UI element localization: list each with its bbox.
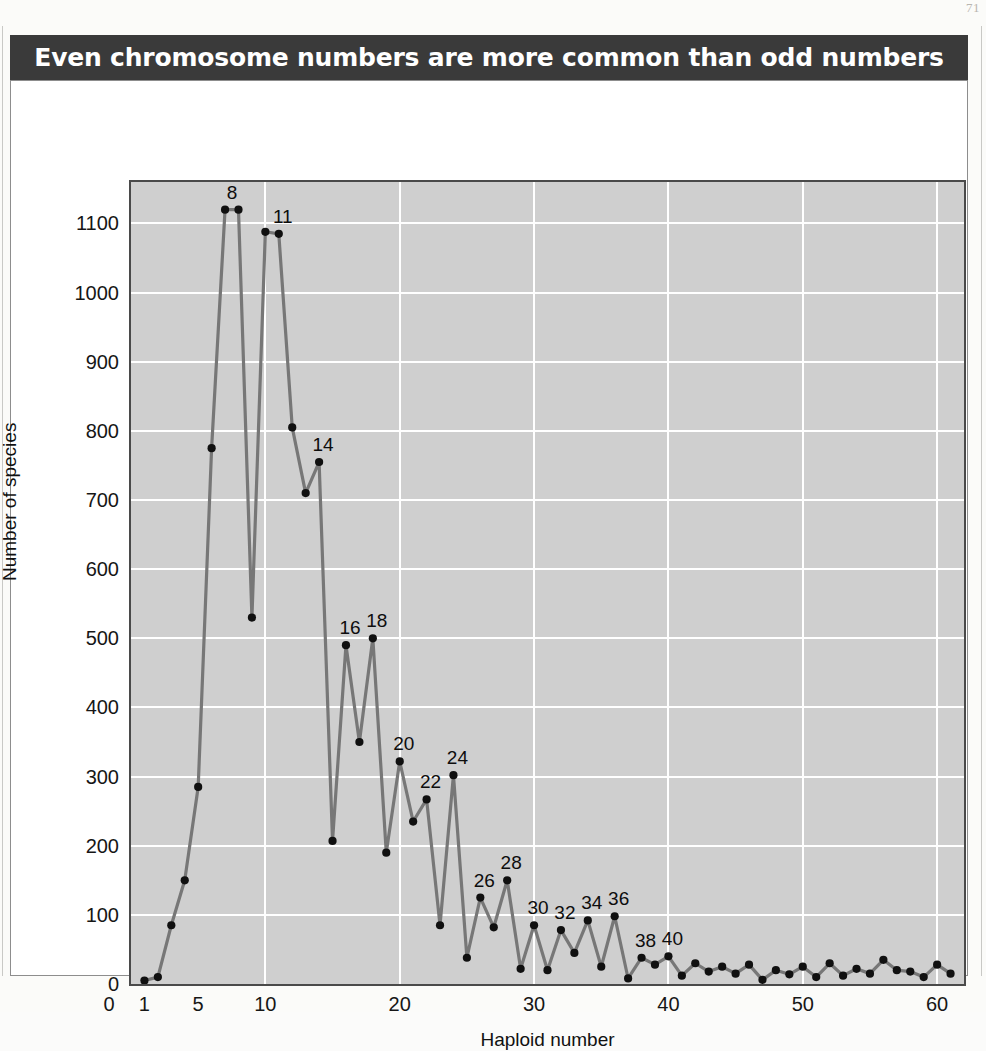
data-point-marker xyxy=(302,489,310,497)
data-point-marker xyxy=(920,973,928,981)
data-point-label: 8 xyxy=(227,182,238,204)
y-tick-label: 400 xyxy=(86,696,119,719)
x-tick-label: 30 xyxy=(523,993,545,1016)
data-point-marker xyxy=(812,973,820,981)
data-point-label: 32 xyxy=(554,902,575,924)
data-point-marker xyxy=(369,634,377,642)
data-point-marker xyxy=(624,974,632,982)
data-point-label: 14 xyxy=(313,434,334,456)
data-point-marker xyxy=(584,916,592,924)
data-point-marker xyxy=(181,876,189,884)
data-point-label: 34 xyxy=(581,892,602,914)
data-point-marker xyxy=(879,956,887,964)
x-axis-title: Haploid number xyxy=(129,1029,966,1051)
data-point-marker xyxy=(758,976,766,984)
chart-title-bar: Even chromosome numbers are more common … xyxy=(10,35,968,80)
figure-frame: 8111416182022242628303234363840 01002003… xyxy=(10,80,968,976)
line-series xyxy=(131,182,964,984)
x-tick-label: 10 xyxy=(254,993,276,1016)
data-point-marker xyxy=(705,967,713,975)
data-point-marker xyxy=(328,837,336,845)
data-point-marker xyxy=(167,921,175,929)
data-point-label: 20 xyxy=(393,733,414,755)
y-tick-label: 500 xyxy=(86,627,119,650)
y-axis-title: Number of species xyxy=(0,423,21,581)
data-point-label: 24 xyxy=(447,747,468,769)
x-tick-label: 50 xyxy=(792,993,814,1016)
data-point-marker xyxy=(449,771,457,779)
data-point-marker xyxy=(718,963,726,971)
data-point-marker xyxy=(772,966,780,974)
data-point-marker xyxy=(382,849,390,857)
page-number-artifact: 71 xyxy=(966,0,980,16)
data-point-marker xyxy=(611,912,619,920)
data-point-marker xyxy=(691,959,699,967)
data-point-marker xyxy=(839,972,847,980)
x-tick-label: 5 xyxy=(193,993,204,1016)
y-tick-label: 700 xyxy=(86,489,119,512)
x-axis-origin-label: 0 xyxy=(103,993,114,1016)
data-point-marker xyxy=(530,921,538,929)
x-tick-label: 20 xyxy=(389,993,411,1016)
data-point-marker xyxy=(557,926,565,934)
x-tick-label: 40 xyxy=(657,993,679,1016)
data-point-marker xyxy=(275,230,283,238)
data-point-marker xyxy=(893,966,901,974)
data-point-label: 22 xyxy=(420,771,441,793)
data-point-marker xyxy=(543,966,551,974)
series-polyline xyxy=(144,210,950,981)
y-tick-label: 200 xyxy=(86,834,119,857)
y-tick-label: 600 xyxy=(86,558,119,581)
plot-inner: 8111416182022242628303234363840 xyxy=(131,182,964,984)
data-point-label: 30 xyxy=(527,897,548,919)
data-point-label: 11 xyxy=(273,206,293,228)
data-point-marker xyxy=(826,959,834,967)
data-point-marker xyxy=(799,963,807,971)
data-point-marker xyxy=(221,206,229,214)
chart-title: Even chromosome numbers are more common … xyxy=(34,43,944,72)
y-tick-label: 300 xyxy=(86,765,119,788)
data-point-marker xyxy=(436,921,444,929)
data-point-marker xyxy=(342,641,350,649)
x-tick-label: 1 xyxy=(139,993,150,1016)
data-point-marker xyxy=(678,972,686,980)
data-point-label: 26 xyxy=(474,870,495,892)
data-point-marker xyxy=(503,876,511,884)
y-tick-label: 900 xyxy=(86,350,119,373)
data-point-label: 38 xyxy=(635,930,656,952)
data-point-marker xyxy=(785,970,793,978)
data-point-marker xyxy=(517,965,525,973)
y-tick-label: 1000 xyxy=(75,281,120,304)
data-point-marker xyxy=(248,613,256,621)
data-point-marker xyxy=(396,757,404,765)
data-point-marker xyxy=(651,961,659,969)
y-tick-label: 1100 xyxy=(76,212,119,235)
data-point-label: 36 xyxy=(608,888,629,910)
data-point-marker xyxy=(288,423,296,431)
data-point-marker xyxy=(154,973,162,981)
data-point-marker xyxy=(355,738,363,746)
data-point-marker xyxy=(852,965,860,973)
y-tick-label: 100 xyxy=(86,903,119,926)
page-rule-right xyxy=(981,26,982,976)
data-point-marker xyxy=(570,949,578,957)
data-point-label: 16 xyxy=(339,617,360,639)
data-point-marker xyxy=(946,970,954,978)
data-point-label: 18 xyxy=(366,610,387,632)
y-tick-label: 800 xyxy=(86,419,119,442)
x-axis-ticks: 151020304050600 xyxy=(11,993,986,1023)
data-point-marker xyxy=(933,961,941,969)
data-point-marker xyxy=(866,970,874,978)
data-point-marker xyxy=(476,893,484,901)
x-tick-label: 60 xyxy=(926,993,948,1016)
data-point-marker xyxy=(261,228,269,236)
plot-area: 8111416182022242628303234363840 xyxy=(129,180,966,986)
data-point-marker xyxy=(664,952,672,960)
data-point-marker xyxy=(463,954,471,962)
data-point-marker xyxy=(409,817,417,825)
data-point-label: 40 xyxy=(662,928,683,950)
data-point-marker xyxy=(422,795,430,803)
data-point-marker xyxy=(140,976,148,984)
data-point-marker xyxy=(732,970,740,978)
